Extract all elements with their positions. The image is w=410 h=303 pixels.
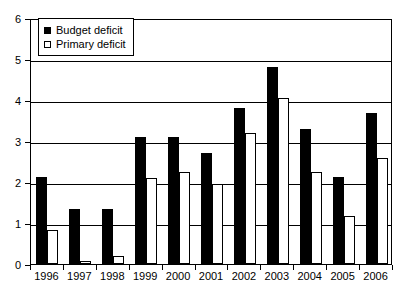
bar-budget-deficit-1998 [102, 209, 113, 264]
x-tick-label: 1996 [34, 270, 58, 282]
x-tick-label: 2004 [297, 270, 321, 282]
x-tick-mark [129, 265, 130, 270]
bar-primary-deficit-2006 [377, 158, 388, 264]
x-tick-mark [195, 265, 196, 270]
x-tick-mark [293, 265, 294, 270]
y-tick-label: 1 [15, 219, 21, 230]
x-tick-label: 1998 [100, 270, 124, 282]
bar-primary-deficit-2005 [344, 216, 355, 264]
bar-budget-deficit-1996 [36, 177, 47, 264]
y-tick-label: 5 [15, 55, 21, 66]
legend-item-label: Primary deficit [56, 38, 126, 51]
bar-budget-deficit-2004 [300, 129, 311, 264]
x-tick-mark [63, 265, 64, 270]
bar-primary-deficit-2003 [278, 98, 289, 264]
bar-budget-deficit-1997 [69, 209, 80, 264]
legend: Budget deficit Primary deficit [38, 18, 134, 56]
gridline [31, 61, 391, 62]
x-tick-mark [326, 265, 327, 270]
x-tick-mark [227, 265, 228, 270]
bar-chart: 0123456 19961997199819992000200120022003… [0, 0, 410, 303]
x-tick-mark [30, 265, 31, 270]
bar-primary-deficit-1996 [47, 230, 58, 264]
x-tick-label: 2002 [232, 270, 256, 282]
bar-primary-deficit-1999 [146, 178, 157, 264]
x-tick-mark [392, 265, 393, 270]
x-tick-label: 2003 [265, 270, 289, 282]
x-tick-mark [260, 265, 261, 270]
x-axis: 1996199719981999200020012002200320042005… [30, 270, 392, 290]
y-tick-label: 0 [15, 260, 21, 271]
bar-primary-deficit-1998 [113, 256, 124, 264]
bar-budget-deficit-1999 [135, 137, 146, 264]
open-square-icon [44, 41, 51, 48]
bar-budget-deficit-2002 [234, 108, 245, 264]
x-tick-mark [359, 265, 360, 270]
y-tick-label: 6 [15, 14, 21, 25]
bar-primary-deficit-2002 [245, 133, 256, 264]
x-tick-label: 1997 [67, 270, 91, 282]
x-tick-label: 2001 [199, 270, 223, 282]
bar-budget-deficit-2006 [366, 113, 377, 264]
legend-item-label: Budget deficit [56, 24, 123, 37]
y-tick-label: 3 [15, 137, 21, 148]
x-tick-label: 2000 [166, 270, 190, 282]
gridline [31, 102, 391, 103]
bar-primary-deficit-2004 [311, 172, 322, 264]
x-tick-mark [96, 265, 97, 270]
bar-budget-deficit-2001 [201, 153, 212, 264]
gridline [31, 143, 391, 144]
y-tick-label: 2 [15, 178, 21, 189]
legend-item: Budget deficit [44, 23, 126, 37]
bar-primary-deficit-2000 [179, 172, 190, 264]
bar-budget-deficit-2000 [168, 137, 179, 264]
x-tick-mark [162, 265, 163, 270]
filled-square-icon [44, 27, 51, 34]
x-tick-label: 2005 [330, 270, 354, 282]
bar-budget-deficit-2005 [333, 177, 344, 264]
bar-primary-deficit-1997 [80, 261, 91, 264]
x-tick-label: 1999 [133, 270, 157, 282]
x-tick-label: 2006 [363, 270, 387, 282]
y-tick-label: 4 [15, 96, 21, 107]
y-axis: 0123456 [0, 0, 30, 303]
bar-primary-deficit-2001 [212, 184, 223, 264]
bar-budget-deficit-2003 [267, 67, 278, 264]
legend-item: Primary deficit [44, 37, 126, 51]
